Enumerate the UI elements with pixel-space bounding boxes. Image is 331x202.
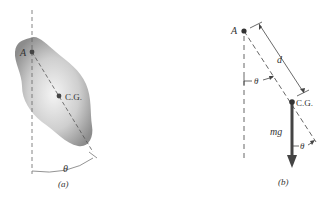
pivot-point-a-b xyxy=(241,28,246,33)
force-label-mg: mg xyxy=(270,126,282,137)
angle-arc-tick xyxy=(89,152,97,158)
pivot-point-a xyxy=(30,50,35,55)
cg-label-b: C.G. xyxy=(296,98,313,108)
caption-b: (b) xyxy=(278,177,289,187)
angle-label-theta: θ xyxy=(63,163,68,174)
pendulum-diagram: A C.G. θ (a) d θ mg θ xyxy=(0,0,331,202)
angle-arrow-lower xyxy=(310,140,315,145)
cg-label: C.G. xyxy=(65,92,82,102)
angle-arrow-upper xyxy=(269,76,274,80)
cg-point-b xyxy=(289,99,295,105)
panel-a: A C.G. θ (a) xyxy=(15,10,97,189)
weight-force-arrowhead xyxy=(287,155,297,168)
pivot-label-a-b: A xyxy=(230,25,238,36)
dimension-arrow-top xyxy=(259,24,262,30)
angle-label-upper: θ xyxy=(254,76,259,86)
angle-label-lower: θ xyxy=(300,141,305,151)
cg-point xyxy=(57,94,62,99)
caption-a: (a) xyxy=(58,179,69,189)
pivot-label-a: A xyxy=(19,47,27,58)
panel-b: d θ mg θ A C.G. (b) xyxy=(230,22,316,187)
